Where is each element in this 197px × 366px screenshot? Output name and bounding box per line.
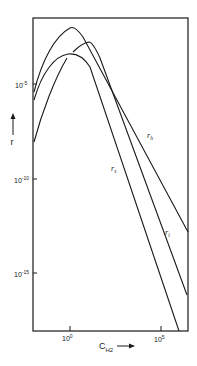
y-axis-title: r	[11, 137, 14, 147]
plot-frame	[33, 18, 188, 331]
series-r-i-line	[73, 42, 187, 295]
chart-canvas: 10-5 10-10 10-15 r 100 105 CH2 rh rs ri	[0, 0, 197, 366]
x-axis: 100 105 CH2	[62, 326, 165, 353]
curves	[34, 27, 188, 331]
x-axis-title: CH2	[99, 341, 114, 353]
series-label-r-i: ri	[165, 228, 170, 238]
y-tick-label-1e-15: 10-15	[14, 269, 29, 278]
y-tick-label-1e-5: 10-5	[15, 80, 27, 89]
series-lower-branch-line	[34, 58, 67, 142]
series-label-r-h: rh	[147, 131, 153, 141]
x-tick-label-1e0: 100	[62, 333, 73, 342]
x-tick-label-1e5: 105	[154, 334, 165, 343]
up-arrow-icon	[11, 113, 16, 119]
series-label-r-s: rs	[111, 164, 116, 174]
series-r-s-line	[34, 54, 179, 331]
y-tick-label-1e-10: 10-10	[14, 175, 29, 184]
right-arrow-icon	[129, 344, 135, 349]
